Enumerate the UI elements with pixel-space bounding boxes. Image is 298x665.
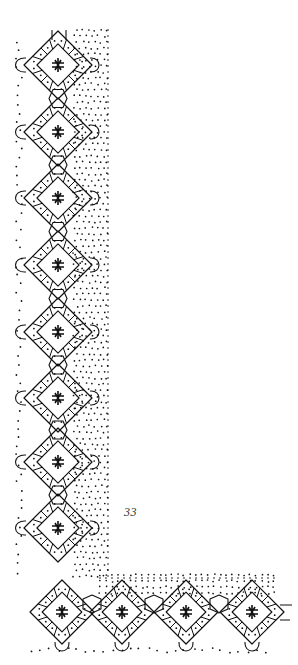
pin-dot: [85, 167, 87, 169]
pin-dot: [38, 614, 40, 616]
pin-dot: [117, 577, 119, 579]
pin-dot: [83, 221, 85, 223]
pin-dot: [67, 214, 69, 216]
pin-dot: [165, 592, 167, 594]
pin-dot: [95, 174, 97, 176]
pin-dot: [100, 137, 102, 139]
band-bar: [33, 124, 43, 127]
pin-dot: [107, 185, 109, 187]
pin-dot: [107, 161, 109, 163]
pin-dot: [91, 35, 93, 37]
pin-dot: [105, 577, 107, 579]
pin-dot: [83, 53, 85, 55]
pin-dot: [107, 401, 109, 403]
pin-dot: [107, 437, 109, 439]
pin-dot: [81, 458, 83, 460]
band-bar: [41, 381, 47, 387]
pin-dot: [100, 413, 102, 415]
band-bar: [63, 281, 66, 291]
pin-dot: [18, 465, 20, 467]
pin-dot: [249, 577, 251, 579]
pin-dot: [243, 577, 245, 579]
band-bar: [67, 588, 70, 597]
pin-dot: [76, 569, 78, 571]
band-bar: [50, 107, 53, 117]
pin-dot: [107, 287, 109, 289]
pin-dot: [243, 591, 245, 593]
pin-dot: [19, 410, 21, 412]
band-bar: [196, 622, 202, 628]
band-bar: [262, 622, 268, 628]
band-bar: [41, 48, 47, 54]
pin-dot: [76, 438, 78, 440]
pin-dot: [103, 551, 105, 553]
band-bar: [69, 445, 75, 451]
pin-dot: [81, 201, 83, 203]
pin-dot: [100, 270, 102, 272]
pin-dot: [107, 413, 109, 415]
pin-dot: [98, 608, 100, 610]
pin-dot: [74, 471, 76, 473]
band-bar: [41, 409, 47, 415]
pin-dot: [93, 460, 95, 462]
pin-dot: [102, 651, 104, 653]
pin-dot: [88, 293, 90, 295]
pin-dot: [91, 539, 93, 541]
pin-dot: [105, 209, 107, 211]
pin-dot: [74, 156, 76, 158]
spider-center: [180, 605, 192, 619]
pin-dot: [107, 251, 109, 253]
pin-dot: [226, 580, 228, 582]
pin-dot: [97, 119, 99, 121]
pin-dot: [88, 256, 90, 258]
pin-dot: [107, 509, 109, 511]
pin-dot: [238, 574, 240, 576]
band-bar: [77, 617, 86, 620]
pin-dot: [96, 419, 98, 421]
band-bar: [69, 381, 75, 387]
pin-dot: [107, 395, 109, 397]
pin-dot: [61, 173, 63, 175]
pin-dot: [107, 101, 109, 103]
band-bar: [170, 622, 176, 628]
band-bar: [33, 454, 43, 457]
pin-dot: [47, 81, 49, 83]
pin-dot: [98, 359, 100, 361]
pin-dot: [254, 580, 256, 582]
pin-dot: [73, 107, 75, 109]
pin-dot: [74, 141, 76, 143]
band-bar: [236, 596, 242, 602]
pin-dot: [183, 577, 185, 579]
pin-dot: [81, 449, 83, 451]
pin-dot: [76, 161, 78, 163]
pin-dot: [82, 473, 84, 475]
pin-dot: [107, 149, 109, 151]
pin-dot: [85, 275, 87, 277]
pin-dot: [78, 382, 80, 384]
pin-dot: [182, 634, 184, 636]
pin-dot: [141, 580, 143, 582]
pin-dot: [79, 262, 81, 264]
pin-dot: [61, 307, 63, 309]
band-bar: [50, 544, 53, 554]
pin-dot: [103, 444, 105, 446]
pin-dot: [72, 515, 74, 517]
pin-dot: [47, 414, 49, 416]
pin-dot: [100, 114, 102, 116]
pin-dot: [101, 378, 103, 380]
pin-dot: [220, 574, 222, 576]
pin-dot: [89, 316, 91, 318]
pin-dot: [86, 382, 88, 384]
pin-dot: [74, 407, 76, 409]
pin-dot: [107, 503, 109, 505]
pin-dot: [74, 131, 76, 133]
pin-dot: [107, 443, 109, 445]
pin-dot: [89, 496, 91, 498]
band-bar: [33, 520, 43, 523]
pin-dot: [135, 573, 137, 575]
pin-dot: [208, 614, 210, 616]
pin-dot: [74, 451, 76, 453]
pin-dot: [273, 591, 275, 593]
pin-dot: [254, 592, 256, 594]
pin-dot: [47, 114, 49, 116]
